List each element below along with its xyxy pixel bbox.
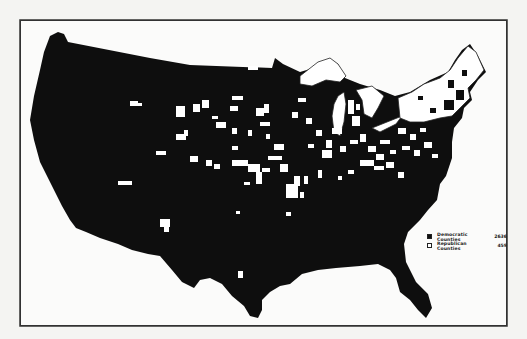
map-legend: Democratic Counties 2636 Republican Coun… [427,232,507,250]
dem-county [456,90,464,100]
legend-count: 459 [491,243,507,248]
dem-county [418,96,423,100]
rep-county [356,104,360,110]
rep-county [348,100,354,114]
dem-county [462,70,467,76]
us-county-map [0,0,527,339]
democratic-swatch-icon [427,234,432,239]
rep-county [352,116,360,126]
legend-label: Republican Counties [437,241,491,251]
dem-county [448,80,454,88]
northeast-republican-region [398,46,484,122]
republican-swatch-icon [427,243,432,248]
dem-county [444,100,454,110]
legend-count: 2636 [491,234,507,239]
dem-county [430,108,436,113]
legend-item-republican: Republican Counties 459 [427,241,507,250]
